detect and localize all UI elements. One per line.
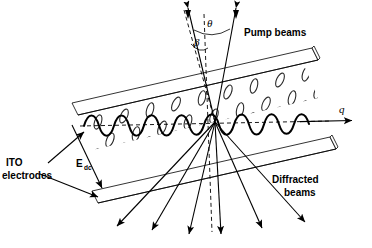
diagram-figure: Pump beams Diffracted beams ITO electrod… [0, 0, 372, 248]
edc-field-label: E [76, 158, 83, 169]
pump-beam-right [215, 8, 236, 122]
angle-theta-arc [194, 29, 230, 35]
diffracted-beams-label-line2: beams [284, 187, 316, 198]
grating-vector-label: q [339, 103, 345, 115]
ito-label-line2: electrodes [2, 170, 52, 181]
diffracted-beams-label-line1: Diffracted [272, 174, 319, 185]
diagram-canvas: Pump beams Diffracted beams ITO electrod… [0, 0, 372, 248]
diffracted-beam-4 [215, 122, 221, 234]
angle-theta-label: θ [207, 17, 213, 29]
angle-beta-label: β [193, 36, 200, 48]
edc-field-arrow [72, 125, 102, 188]
edc-field-subscript: dc [84, 164, 92, 171]
ito-label-line1: ITO [6, 157, 23, 168]
pump-beams-label: Pump beams [244, 27, 307, 38]
